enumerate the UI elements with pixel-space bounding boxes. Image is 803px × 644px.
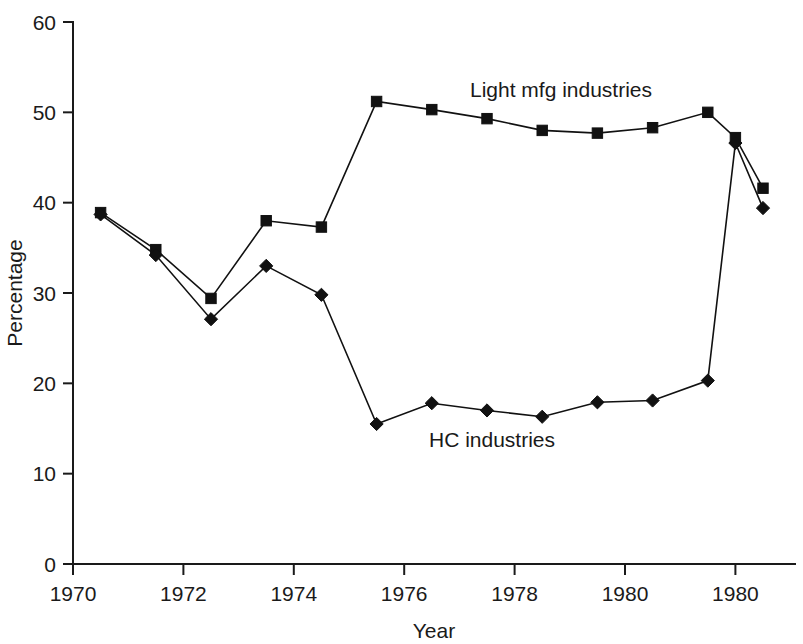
x-axis-title: Year [413, 619, 455, 642]
data-series [95, 96, 768, 303]
y-axis-tick-label: 40 [33, 191, 56, 214]
series-label: HC industries [429, 428, 555, 451]
data-point-marker-diamond [370, 417, 383, 430]
series-line [101, 101, 763, 298]
x-axis-tick-label: 1974 [270, 582, 317, 605]
data-point-marker-square [371, 96, 381, 106]
x-axis-tick-label: 1972 [160, 582, 207, 605]
data-point-marker-diamond [480, 404, 493, 417]
x-axis-tick-label: 1978 [491, 582, 538, 605]
y-axis-tick-label: 20 [33, 372, 56, 395]
x-axis-tick-label: 1976 [381, 582, 428, 605]
data-point-marker-diamond [591, 396, 604, 409]
data-point-marker-square [482, 113, 492, 123]
data-point-marker-square [206, 293, 216, 303]
x-axis-tick-labels: 1970197219741976197819801980 [50, 582, 759, 605]
y-axis-tick-labels: 0102030405060 [33, 11, 56, 576]
data-point-marker-diamond [756, 201, 769, 214]
data-series-group [94, 96, 770, 430]
x-axis-tick-label: 1970 [50, 582, 97, 605]
y-axis-tick-label: 30 [33, 282, 56, 305]
data-point-marker-diamond [425, 397, 438, 410]
data-point-marker-square [537, 125, 547, 135]
y-axis-title: Percentage [3, 239, 26, 346]
data-point-marker-diamond [315, 288, 328, 301]
data-point-marker-diamond [536, 410, 549, 423]
y-axis-tick-label: 10 [33, 462, 56, 485]
data-point-marker-diamond [701, 374, 714, 387]
x-axis-tick-label: 1980 [712, 582, 759, 605]
y-axis-tick-label: 0 [44, 553, 56, 576]
data-point-marker-square [427, 104, 437, 114]
x-axis-ticks [73, 564, 735, 575]
x-axis-tick-label: 1980 [602, 582, 649, 605]
y-axis-ticks [63, 22, 73, 564]
series-label: Light mfg industries [470, 78, 652, 101]
data-point-marker-square [592, 128, 602, 138]
data-point-marker-square [703, 107, 713, 117]
data-point-marker-diamond [646, 394, 659, 407]
data-point-marker-square [647, 122, 657, 132]
y-axis-tick-label: 50 [33, 101, 56, 124]
data-point-marker-square [316, 222, 326, 232]
chart-container: 0102030405060 19701972197419761978198019… [0, 0, 803, 644]
y-axis-tick-label: 60 [33, 11, 56, 34]
line-chart: 0102030405060 19701972197419761978198019… [0, 0, 803, 644]
series-line [101, 143, 763, 424]
data-point-marker-square [261, 216, 271, 226]
data-point-marker-square [758, 183, 768, 193]
